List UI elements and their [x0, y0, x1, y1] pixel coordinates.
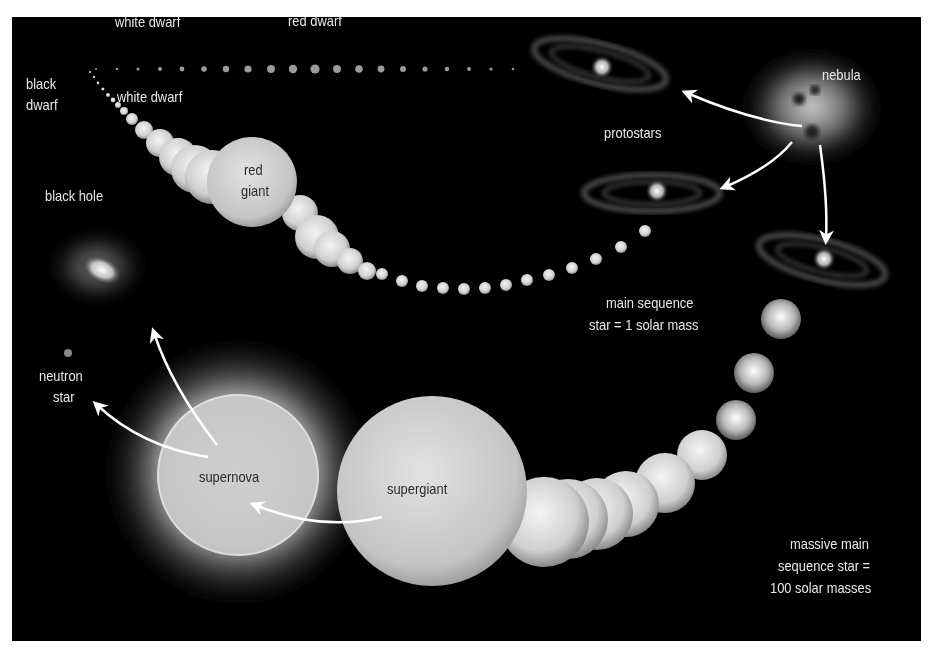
label-red-dwarf: red dwarf	[288, 17, 342, 30]
label-red-giant-2: giant	[241, 182, 269, 200]
label-main-sequence-1: main sequence	[606, 294, 693, 312]
protostar-disk-2	[584, 175, 720, 211]
label-red-giant-1: red	[244, 161, 263, 179]
label-main-sequence-2: star = 1 solar mass	[589, 316, 698, 334]
protostar-disk-3	[754, 225, 890, 295]
diagram-artwork	[12, 17, 921, 641]
label-massive-1: massive main	[790, 535, 869, 553]
label-neutron-star-2: star	[53, 388, 75, 406]
label-protostars: protostars	[604, 124, 661, 142]
label-black-dwarf-1: black	[26, 75, 56, 93]
label-white-dwarf-lower: white dwarf	[117, 88, 182, 106]
red-dwarf-sequence	[95, 64, 514, 73]
label-neutron-star-1: neutron	[39, 367, 83, 385]
label-black-hole: black hole	[45, 187, 103, 205]
label-massive-2: sequence star =	[778, 557, 870, 575]
neutron-star-dot	[64, 349, 72, 357]
label-supergiant: supergiant	[387, 480, 447, 498]
massive-star-sequence	[716, 299, 801, 440]
black-hole-galaxy	[45, 227, 149, 307]
label-white-dwarf-top: white dwarf	[115, 17, 180, 31]
star-lifecycle-diagram: white dwarf red dwarf black dwarf white …	[12, 17, 921, 641]
label-supernova: supernova	[199, 468, 259, 486]
nebula-cloud	[737, 45, 887, 169]
protostar-disk-1	[529, 28, 671, 100]
label-massive-3: 100 solar masses	[770, 579, 871, 597]
label-nebula: nebula	[822, 66, 861, 84]
label-black-dwarf-2: dwarf	[26, 96, 58, 114]
